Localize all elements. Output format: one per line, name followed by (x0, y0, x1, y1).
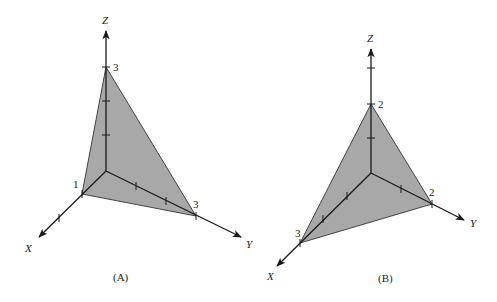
z-axis-label-a: Z (102, 14, 109, 26)
x-axis-label-a: X (24, 242, 33, 254)
y-axis-label-a: Y (246, 238, 254, 250)
y-intercept-label-a: 3 (193, 198, 199, 210)
x-intercept-label-a: 1 (73, 178, 79, 190)
diagram-a: Z X Y 3 1 3 (A) (24, 14, 254, 284)
y-axis-label-b: Y (470, 217, 478, 229)
y-intercept-label-b: 2 (429, 186, 435, 198)
z-axis-label-b: Z (367, 32, 374, 44)
diagram-b: Z X Y 2 2 3 (B) (266, 32, 478, 285)
z-intercept-label-b: 2 (378, 98, 384, 110)
z-intercept-label-a: 3 (113, 61, 119, 73)
figure: Z X Y 3 1 3 (A) Z X Y 2 2 3 (B) (0, 0, 497, 302)
x-axis-label-b: X (266, 270, 275, 282)
x-intercept-label-b: 3 (295, 227, 301, 239)
plane-b (300, 104, 432, 243)
caption-a: (A) (113, 271, 129, 284)
caption-b: (B) (378, 272, 393, 285)
plane-a (82, 67, 196, 216)
